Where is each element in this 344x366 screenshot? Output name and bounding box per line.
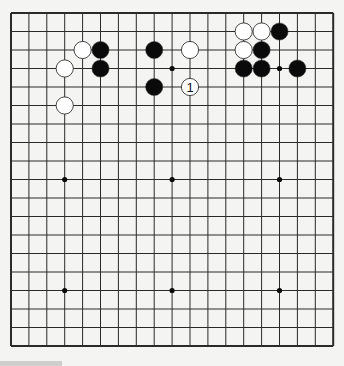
black-stone <box>253 60 270 77</box>
white-stone <box>235 23 252 40</box>
star-point <box>170 177 175 182</box>
star-point <box>170 288 175 293</box>
page-edge-shadow <box>0 361 62 366</box>
white-stone <box>74 41 91 58</box>
black-stone <box>146 41 163 58</box>
black-stone <box>289 60 306 77</box>
star-point <box>277 288 282 293</box>
black-stone <box>92 41 109 58</box>
white-stone <box>253 23 270 40</box>
move-number-label: 1 <box>186 80 193 95</box>
go-board: 1 <box>0 0 344 366</box>
black-stone <box>146 78 163 95</box>
star-point <box>277 177 282 182</box>
black-stone <box>253 41 270 58</box>
star-point <box>277 66 282 71</box>
star-point <box>170 66 175 71</box>
black-stone <box>235 60 252 77</box>
white-stone <box>56 97 73 114</box>
black-stone <box>271 23 288 40</box>
white-stone <box>56 60 73 77</box>
star-point <box>62 177 67 182</box>
black-stone <box>92 60 109 77</box>
white-stone <box>235 41 252 58</box>
white-stone: 1 <box>181 78 198 95</box>
white-stone <box>181 41 198 58</box>
star-point <box>62 288 67 293</box>
